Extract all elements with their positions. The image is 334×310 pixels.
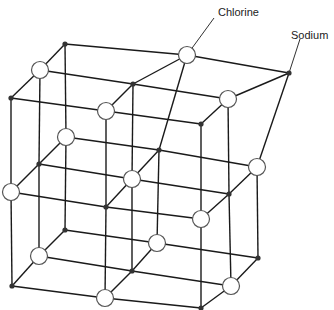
bond-horizontal [39,164,132,179]
chlorine-ion-icon [32,62,49,79]
sodium-ion-icon [198,121,203,126]
chlorine-ion-icon [223,278,240,295]
bond-horizontal [187,55,289,73]
bond-horizontal [157,243,258,258]
sodium-ion-icon [130,81,135,86]
bond-horizontal [132,271,231,286]
bond-horizontal [39,256,132,271]
bond-horizontal [132,179,229,194]
chlorine-ion-icon [3,184,20,201]
bond-horizontal [133,84,228,99]
sodium-ion-icon [129,268,134,273]
sodium-ion-icon [8,95,13,100]
chlorine-ion-icon [193,211,210,228]
bond-vertical [159,55,187,150]
sodium-ion-icon [9,283,14,288]
bond-horizontal [40,70,133,84]
bond-vertical [65,137,66,230]
chlorine-ion-icon [149,235,166,252]
bond-vertical [157,150,159,243]
chlorine-ion-icon [179,47,196,64]
bond-horizontal [66,137,159,150]
sodium-label: Sodium [291,29,328,41]
sodium-ion-icon [103,204,108,209]
sodium-ion-icon [62,227,67,232]
bond-horizontal [105,298,201,308]
sodium-ion-icon [226,191,231,196]
bond-vertical [132,84,133,179]
bond-horizontal [159,150,257,167]
bond-vertical [228,99,229,194]
nacl-lattice-diagram [0,0,334,310]
bond-vertical [257,167,258,258]
bond-depth [228,73,289,99]
bond-horizontal [65,44,187,55]
sodium-ion-icon [286,70,291,75]
chlorine-ion-icon [31,248,48,265]
sodium-leader-line [289,39,300,73]
bond-horizontal [65,230,157,243]
bond-vertical [229,194,231,286]
chlorine-ion-icon [98,103,115,120]
chlorine-ion-icon [124,171,141,188]
sodium-ion-icon [36,161,41,166]
bond-horizontal [11,98,106,111]
bond-horizontal [106,207,201,219]
bond-depth [133,55,187,84]
chlorine-label: Chlorine [218,6,259,18]
bond-vertical [257,73,289,167]
sodium-ion-icon [255,255,260,260]
bond-horizontal [11,192,106,207]
chlorine-ion-icon [58,129,75,146]
chlorine-ion-icon [97,290,114,307]
chlorine-ion-icon [249,159,266,176]
bond-vertical [39,70,40,164]
sodium-ion-icon [156,147,161,152]
bond-horizontal [106,111,201,124]
bond-vertical [65,44,66,137]
bond-vertical [105,207,106,298]
bond-vertical [11,192,12,286]
bond-horizontal [12,286,105,298]
chlorine-ion-icon [220,91,237,108]
sodium-ion-icon [62,41,67,46]
lattice-bonds [11,44,289,308]
